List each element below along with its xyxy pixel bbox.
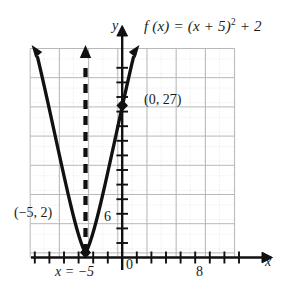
graph-figure: f (x) = (x + 5)2 + 2 y x (0, 27) (−5, 2)…: [0, 0, 283, 298]
parabola-plot: [0, 0, 283, 298]
axis-of-symmetry-label: x = −5: [55, 265, 94, 279]
y-intercept-label: (0, 27): [144, 93, 181, 107]
grid-minor: [30, 49, 234, 259]
x-axis-label: x: [265, 255, 271, 269]
x-tick-label-8: 8: [196, 265, 203, 279]
function-formula: f (x) = (x + 5)2 + 2: [144, 18, 262, 34]
y-axis-arrowhead: [117, 26, 128, 37]
origin-tick-label: 0: [126, 258, 133, 272]
y-axis-label: y: [112, 19, 118, 33]
vertex-label: (−5, 2): [14, 206, 52, 220]
y-tick-label-6: 6: [104, 210, 111, 224]
